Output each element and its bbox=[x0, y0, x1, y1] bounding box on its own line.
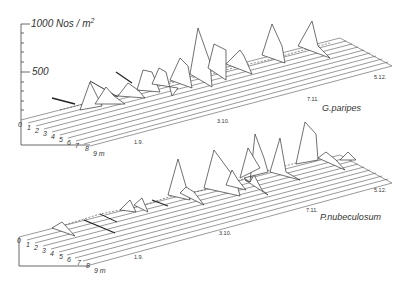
svg-text:6: 6 bbox=[67, 139, 71, 146]
svg-text:9 m: 9 m bbox=[93, 150, 105, 157]
svg-text:1: 1 bbox=[26, 241, 30, 248]
date-label-5-12-lower: 5.12. bbox=[374, 187, 387, 193]
date-label-1-9: 1.9. bbox=[134, 139, 144, 145]
svg-text:5: 5 bbox=[59, 253, 63, 260]
depth-ticks-lower: 0 1 2 3 4 5 6 7 8 9 m bbox=[17, 237, 106, 274]
svg-text:0: 0 bbox=[17, 237, 21, 244]
date-label-1-9-lower: 1.9. bbox=[134, 254, 144, 260]
species-label-top: G.paripes bbox=[322, 103, 362, 113]
figure: 1000 Nos / m2 500 0 1 2 3 4 5 6 bbox=[0, 0, 407, 287]
svg-text:6: 6 bbox=[67, 256, 71, 263]
upper-panel: 1000 Nos / m2 500 0 1 2 3 4 5 6 bbox=[18, 17, 392, 157]
y-axis-title: 1000 Nos / m2 bbox=[31, 17, 94, 29]
svg-text:8: 8 bbox=[86, 262, 90, 269]
depth-grid-lower bbox=[19, 155, 392, 265]
species-label-bottom: P.nubeculosum bbox=[320, 212, 381, 222]
y-ticks bbox=[21, 24, 30, 110]
svg-text:4: 4 bbox=[50, 250, 54, 257]
svg-text:2: 2 bbox=[34, 127, 39, 134]
svg-text:3: 3 bbox=[42, 247, 46, 254]
svg-text:1: 1 bbox=[27, 124, 31, 131]
svg-text:4: 4 bbox=[51, 133, 55, 140]
date-label-3-10: 3.10. bbox=[217, 118, 230, 124]
svg-text:0: 0 bbox=[18, 121, 22, 128]
svg-text:5: 5 bbox=[59, 136, 63, 143]
svg-text:8: 8 bbox=[85, 145, 89, 152]
svg-text:7: 7 bbox=[77, 259, 82, 266]
date-label-7-11: 7.11. bbox=[307, 96, 319, 102]
y-tick-500: 500 bbox=[32, 66, 49, 77]
date-label-3-10-lower: 3.10. bbox=[219, 230, 232, 236]
date-label-7-11-lower: 7.11. bbox=[306, 207, 318, 213]
svg-text:3: 3 bbox=[43, 130, 47, 137]
date-label-5-12: 5.12. bbox=[374, 74, 387, 80]
svg-text:7: 7 bbox=[75, 142, 80, 149]
svg-text:2: 2 bbox=[33, 244, 38, 251]
svg-text:9 m: 9 m bbox=[94, 267, 106, 274]
